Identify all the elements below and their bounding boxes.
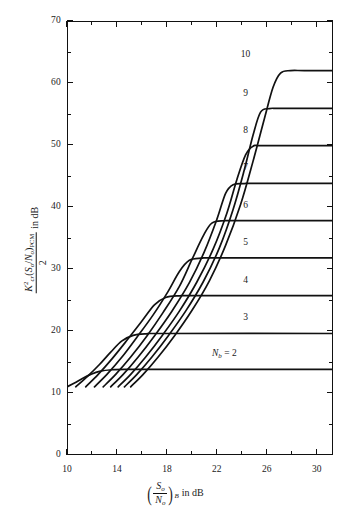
curve-nb-3 (76, 333, 333, 386)
y-tick-major-right (327, 144, 333, 145)
x-title-no: N (155, 494, 162, 505)
y-tick-minor (67, 424, 71, 425)
curve-nb-10 (131, 70, 333, 386)
x-tick-minor-top (291, 21, 292, 25)
y-tick-major (67, 82, 73, 83)
x-tick-label-26: 26 (252, 464, 282, 474)
x-tick-major (316, 449, 317, 455)
y-tick-label-70: 70 (33, 16, 61, 26)
y-tick-major (67, 144, 73, 145)
x-tick-label-10: 10 (52, 464, 82, 474)
y-tick-major-right (327, 330, 333, 331)
x-axis-title: (SoNo)Bin dB (0, 480, 350, 507)
y-tick-major-right (327, 454, 333, 455)
y-tick-major (67, 268, 73, 269)
y-tick-major-right (327, 268, 333, 269)
y-title-k-sub: cr (28, 276, 36, 282)
x-tick-major (116, 449, 117, 455)
y-title-slash: / (23, 261, 34, 264)
y-title-k: K (23, 285, 34, 292)
y-tick-minor-right (329, 176, 333, 177)
x-tick-minor-top (241, 21, 242, 25)
y-tick-label-60: 60 (33, 78, 61, 88)
curve-nb-6 (103, 221, 333, 387)
curve-canvas (67, 21, 333, 455)
y-title-so-sub: o (28, 264, 36, 268)
y-title-fraction: K2cr(So/No)PCM2 (22, 232, 49, 294)
curve-label-nb-3: 3 (243, 312, 248, 322)
y-tick-minor (67, 52, 71, 53)
y-tick-major (67, 392, 73, 393)
x-title-numerator: So (153, 480, 167, 494)
y-title-no-sub: o (28, 251, 36, 255)
y-tick-label-10: 10 (33, 388, 61, 398)
x-tick-minor (91, 451, 92, 455)
curve-label-nb-9: 9 (243, 88, 248, 98)
y-tick-minor (67, 114, 71, 115)
y-tick-minor-right (329, 424, 333, 425)
curve-label-nb-2: Nb = 2 (212, 348, 237, 361)
x-tick-minor (241, 451, 242, 455)
y-tick-major (67, 20, 73, 21)
x-title-fraction: SoNo (153, 480, 167, 507)
y-tick-major-right (327, 392, 333, 393)
x-tick-minor (291, 451, 292, 455)
y-tick-minor (67, 176, 71, 177)
x-tick-label-30: 30 (302, 464, 332, 474)
y-tick-major-right (327, 82, 333, 83)
y-title-denominator: 2 (37, 232, 49, 294)
y-tick-minor-right (329, 362, 333, 363)
figure-container: 010203040506070 101418222630 Nb = 234567… (0, 0, 350, 526)
y-tick-major-right (327, 206, 333, 207)
x-tick-major-top (66, 21, 67, 27)
x-title-open-paren: ( (148, 485, 153, 503)
x-tick-major-top (316, 21, 317, 27)
y-tick-minor-right (329, 238, 333, 239)
curve-label-nb-5: 5 (243, 237, 248, 247)
curve-label-nb-4: 4 (243, 275, 248, 285)
curve-label-nb-6: 6 (243, 200, 248, 210)
curve-label-nb-10: 10 (241, 49, 251, 59)
y-tick-minor (67, 362, 71, 363)
x-tick-major (266, 449, 267, 455)
x-title-denominator: No (153, 494, 167, 507)
x-tick-major-top (166, 21, 167, 27)
y-tick-major (67, 454, 73, 455)
x-tick-major-top (266, 21, 267, 27)
x-tick-minor (141, 451, 142, 455)
y-title-numerator: K2cr(So/No)PCM (22, 232, 37, 294)
y-title-open-paren: ( (23, 272, 34, 275)
y-tick-minor-right (329, 300, 333, 301)
y-title-k-sup: 2 (22, 282, 30, 286)
y-title-units: in dB (28, 207, 39, 232)
y-tick-major (67, 206, 73, 207)
x-tick-minor-top (91, 21, 92, 25)
curve-label-nb-8: 8 (243, 125, 248, 135)
y-axis-title: K2cr(So/No)PCM2in dB (22, 155, 49, 345)
x-tick-minor (191, 451, 192, 455)
y-tick-minor (67, 238, 71, 239)
y-tick-label-0: 0 (33, 450, 61, 460)
x-tick-label-14: 14 (102, 464, 132, 474)
x-title-close-paren: ) (169, 485, 174, 503)
y-title-so: S (23, 267, 34, 272)
x-tick-major (216, 449, 217, 455)
curve-label-nb-7: 7 (243, 162, 248, 172)
y-tick-minor-right (329, 52, 333, 53)
x-tick-major (166, 449, 167, 455)
x-tick-minor-top (191, 21, 192, 25)
x-tick-minor-top (141, 21, 142, 25)
x-title-so-sub: o (161, 485, 165, 493)
x-tick-major-top (216, 21, 217, 27)
x-tick-major (66, 449, 67, 455)
y-title-close-paren: ) (23, 248, 34, 251)
x-title-no-sub: o (162, 499, 166, 507)
y-tick-minor-right (329, 114, 333, 115)
y-tick-label-50: 50 (33, 140, 61, 150)
x-title-units: in dB (179, 487, 204, 498)
y-tick-minor (67, 300, 71, 301)
x-tick-major-top (116, 21, 117, 27)
y-title-pcm-sub: PCM (28, 234, 35, 248)
x-tick-label-18: 18 (152, 464, 182, 474)
y-title-no: N (23, 254, 34, 261)
